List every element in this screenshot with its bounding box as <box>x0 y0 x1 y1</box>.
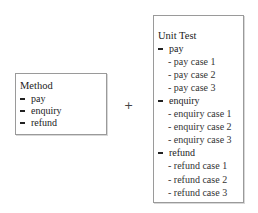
bullet-icon <box>20 98 25 100</box>
method-item-enquiry: enquiry <box>20 105 62 117</box>
bullet-icon <box>20 110 25 112</box>
unit-case: - refund case 3 <box>168 187 227 199</box>
plus-operator: + <box>124 99 133 112</box>
unit-case: - enquiry case 2 <box>168 121 232 133</box>
method-item-pay: pay <box>20 93 45 105</box>
unit-case: - enquiry case 3 <box>168 134 232 146</box>
unit-case: - pay case 1 <box>168 56 215 68</box>
bullet-icon <box>158 48 163 50</box>
bullet-icon <box>158 100 163 102</box>
method-box-title: Method <box>20 80 53 92</box>
method-item-refund: refund <box>20 117 57 129</box>
unit-group-pay: pay <box>158 43 183 55</box>
bullet-icon <box>20 122 25 124</box>
unit-case: - enquiry case 1 <box>168 108 232 120</box>
unit-case: - refund case 2 <box>168 174 227 186</box>
method-box: Method pay enquiry refund <box>15 73 107 135</box>
unit-case: - pay case 3 <box>168 82 215 94</box>
bullet-icon <box>158 152 163 154</box>
unit-test-title: Unit Test <box>158 30 196 42</box>
unit-group-enquiry: enquiry <box>158 95 200 107</box>
unit-test-box: Unit Test pay - pay case 1 - pay case 2 … <box>153 15 244 203</box>
unit-case: - refund case 1 <box>168 160 227 172</box>
unit-case: - pay case 2 <box>168 69 215 81</box>
unit-group-refund: refund <box>158 147 195 159</box>
